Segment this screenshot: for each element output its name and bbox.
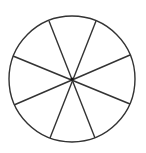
diagram-canvas xyxy=(0,0,146,153)
center-point xyxy=(70,77,73,80)
sectored-circle-diagram xyxy=(0,0,146,153)
